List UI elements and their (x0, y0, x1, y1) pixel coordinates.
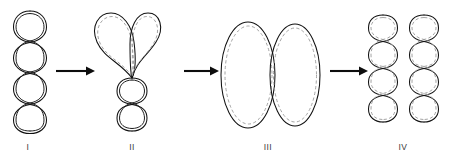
panel-3-left-ellipse-dashed (225, 26, 272, 124)
panel-2-loops-with-plectoneme (95, 13, 161, 131)
panel-4-left-strand-b (369, 15, 398, 122)
panel-3-double-circle (221, 22, 320, 128)
arrow-3-III-to-IV (330, 67, 368, 76)
dna-supercoiling-figure: I II III IV (0, 0, 449, 157)
panel-4-label: IV (399, 142, 408, 152)
panel-4-twin-plectonemes (369, 15, 439, 122)
panel-2-braid-b-outer (117, 78, 147, 131)
arrow-3-head (359, 67, 368, 76)
panel-1-strand-b-inner (16, 14, 44, 132)
diagram-canvas: I II III IV (0, 0, 449, 157)
panel-3-right-ellipse-dashed (274, 28, 317, 122)
panel-3-label: III (264, 142, 272, 152)
panel-2-left-loop-dashed (98, 17, 134, 77)
arrow-2-II-to-III (184, 67, 219, 76)
panel-1-label: I (27, 142, 30, 152)
panel-2-right-loop-dashed (132, 17, 158, 77)
panel-3-left-ellipse-outline (221, 22, 275, 128)
panel-4-right-plectoneme (410, 15, 439, 122)
arrow-2-head (210, 67, 219, 76)
arrow-1-I-to-II (56, 67, 95, 76)
panel-2-label: II (129, 142, 135, 152)
arrow-1-head (86, 67, 95, 76)
panel-4-left-plectoneme (369, 15, 398, 122)
panel-1-plectoneme (14, 11, 47, 134)
panel-3-right-ellipse-outline (270, 24, 320, 126)
panel-4-right-strand-b (410, 15, 439, 122)
